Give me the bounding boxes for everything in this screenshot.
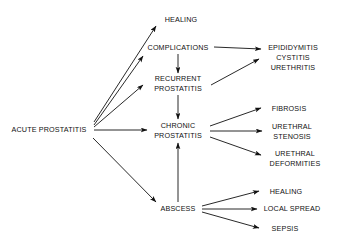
diagram-node-local-spread: LOCAL SPREAD	[264, 204, 321, 214]
diagram-node-healing-top: HEALING	[165, 15, 198, 25]
diagram-arrow-complications-to-epididymitis	[214, 47, 261, 49]
diagram-node-sepsis: SEPSIS	[272, 224, 299, 234]
diagram-arrow-acute-to-complications	[94, 56, 143, 125]
diagram-arrow-chronic-to-deformities	[210, 137, 261, 155]
diagram-node-acute-prostatitis: ACUTE PROSTATITIS	[12, 125, 87, 135]
diagram-node-label: PROSTATITIS	[154, 131, 202, 141]
diagram-node-label: ACUTE PROSTATITIS	[12, 125, 87, 135]
diagram-node-label: LOCAL SPREAD	[264, 204, 321, 214]
diagram-node-label: COMPLICATIONS	[148, 43, 209, 53]
diagram-node-label: FIBROSIS	[272, 104, 307, 114]
diagram-node-label: DEFORMITIES	[270, 159, 321, 169]
diagram-node-label: HEALING	[270, 187, 303, 197]
diagram-node-fibrosis: FIBROSIS	[272, 104, 307, 114]
diagram-node-urethral-deformities: URETHRALDEFORMITIES	[270, 149, 321, 169]
diagram-node-label: HEALING	[165, 15, 198, 25]
diagram-node-chronic-prostatitis: CHRONICPROSTATITIS	[154, 121, 202, 141]
diagram-node-label: CYSTITIS	[268, 53, 318, 63]
diagram-node-label: SEPSIS	[272, 224, 299, 234]
diagram-arrow-acute-to-recurrent	[94, 85, 143, 127]
diagram-arrow-acute-to-abscess	[93, 138, 156, 202]
diagram-node-label: STENOSIS	[272, 132, 312, 142]
diagram-node-abscess: ABSCESS	[160, 204, 195, 214]
diagram-node-label: URETHRITIS	[268, 63, 318, 73]
diagram-arrow-chronic-to-fibrosis	[210, 108, 261, 126]
diagram-node-healing-bottom: HEALING	[270, 187, 303, 197]
diagram-node-label: RECURRENT	[154, 74, 202, 84]
diagram-node-label: CHRONIC	[154, 121, 202, 131]
diagram-node-complications: COMPLICATIONS	[148, 43, 209, 53]
flow-chart-diagram: ACUTE PROSTATITISHEALINGCOMPLICATIONSEPI…	[0, 0, 338, 244]
diagram-node-label: ABSCESS	[160, 204, 195, 214]
diagram-node-label: URETHRAL	[272, 122, 312, 132]
diagram-node-epididymitis-group: EPIDIDYMITISCYSTITISURETHRITIS	[268, 43, 318, 73]
diagram-node-recurrent-prostatitis: RECURRENTPROSTATITIS	[154, 74, 202, 94]
diagram-node-urethral-stenosis: URETHRALSTENOSIS	[272, 122, 312, 142]
diagram-arrow-abscess-to-sepsis	[202, 212, 259, 228]
diagram-arrow-abscess-to-healing	[202, 191, 259, 206]
diagram-arrow-acute-to-healing	[94, 26, 156, 122]
diagram-arrow-recurrent-to-epididymitis	[211, 59, 259, 85]
diagram-node-label: EPIDIDYMITIS	[268, 43, 318, 53]
diagram-node-label: PROSTATITIS	[154, 84, 202, 94]
diagram-node-label: URETHRAL	[270, 149, 321, 159]
